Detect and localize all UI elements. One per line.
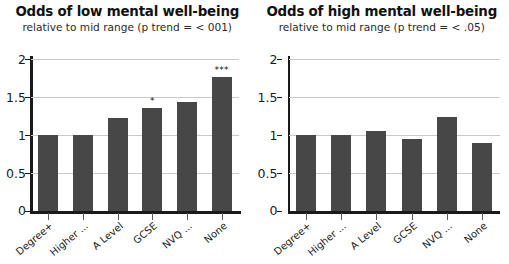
- bar-slot: [66, 59, 101, 211]
- x-axis-tick-labels-left: Degree+Higher ...A LevelGCSENVQ ...None: [31, 220, 239, 264]
- bar-gcse: [402, 139, 422, 211]
- y-tick-label-1_5: 1.5: [6, 92, 26, 104]
- plot-area-left: * ***: [31, 59, 239, 211]
- x-tick-label: Higher ...: [48, 220, 90, 258]
- x-tick-mark: [152, 213, 153, 220]
- y-tick-mark-1: [277, 135, 282, 136]
- chart-panel-low-wellbeing: Odds of low mental well-being relative t…: [0, 0, 255, 264]
- bar-higher: [331, 135, 351, 211]
- x-tick-mark: [376, 213, 377, 220]
- y-tick-label-2: 2: [18, 54, 26, 66]
- bar-slot: [324, 59, 359, 211]
- panel-title-block-right: Odds of high mental well-being relative …: [255, 0, 509, 34]
- bar-slot: [359, 59, 394, 211]
- bar-none: [472, 143, 492, 211]
- bar-slot: [31, 59, 66, 211]
- y-tick-label-1: 1: [18, 130, 26, 142]
- y-tick-label-1: 1: [270, 130, 278, 142]
- bar-nvq: [177, 102, 197, 211]
- significance-marker: ***: [214, 66, 228, 75]
- x-tick-label: None: [186, 220, 228, 258]
- bar-slot: [100, 59, 135, 211]
- bar-nvq: [437, 117, 457, 211]
- x-tick-label: Higher ...: [306, 220, 348, 258]
- x-tick-mark: [306, 213, 307, 220]
- dual-bar-chart-figure: Odds of low mental well-being relative t…: [0, 0, 509, 264]
- y-axis-tick-labels-right: 2 1.5 1 0.5 0: [255, 0, 285, 264]
- x-tick-label: NVQ ...: [152, 220, 194, 258]
- bar-slot: *: [135, 59, 170, 211]
- significance-marker: *: [150, 97, 155, 106]
- bar-slot: [464, 59, 499, 211]
- y-axis-tick-labels-left: 2 1.5 1 0.5 0: [0, 0, 30, 264]
- x-axis-tick-marks-right: [289, 213, 500, 220]
- x-axis-tick-labels-right: Degree+Higher ...A LevelGCSENVQ ...None: [289, 220, 500, 264]
- panel-subtitle: relative to mid range (p trend = < .05): [255, 20, 509, 34]
- bar-none: [212, 77, 232, 211]
- plot-area-right: [289, 59, 500, 211]
- y-tick-label-1_5: 1.5: [258, 92, 278, 104]
- panel-subtitle: relative to mid range (p trend = < 001): [0, 20, 255, 34]
- bar-slot: [429, 59, 464, 211]
- bar-slot: ***: [204, 59, 239, 211]
- bar-degree-plus: [296, 135, 316, 211]
- y-tick-mark-0: [277, 211, 282, 212]
- x-tick-label: A Level: [341, 220, 383, 258]
- bar-series-right: [289, 59, 500, 211]
- x-tick-label: GCSE: [376, 220, 418, 258]
- x-tick-mark: [83, 213, 84, 220]
- bar-a-level: [108, 118, 128, 211]
- page-title: Odds of low mental well-being: [0, 0, 255, 20]
- bar-slot: [289, 59, 324, 211]
- y-tick-label-0_5: 0.5: [258, 168, 278, 180]
- y-tick-label-0_5: 0.5: [6, 168, 26, 180]
- bar-higher: [73, 135, 93, 211]
- bar-series-left: * ***: [31, 59, 239, 211]
- bar-degree-plus: [38, 135, 58, 211]
- panel-title-block-left: Odds of low mental well-being relative t…: [0, 0, 255, 34]
- bar-slot: [170, 59, 205, 211]
- x-tick-mark: [48, 213, 49, 220]
- bar-slot: [394, 59, 429, 211]
- x-tick-mark: [482, 213, 483, 220]
- bar-a-level: [366, 131, 386, 211]
- y-tick-mark-2: [277, 59, 282, 60]
- y-tick-mark-1_5: [277, 97, 282, 98]
- x-axis-tick-marks-left: [31, 213, 239, 220]
- x-tick-label: NVQ ...: [412, 220, 454, 258]
- chart-panel-high-wellbeing: Odds of high mental well-being relative …: [255, 0, 509, 264]
- y-tick-label-2: 2: [270, 54, 278, 66]
- bar-gcse: [142, 108, 162, 211]
- x-tick-mark: [187, 213, 188, 220]
- x-tick-mark: [341, 213, 342, 220]
- x-tick-label: None: [447, 220, 489, 258]
- page-title: Odds of high mental well-being: [255, 0, 509, 20]
- y-tick-mark-0_5: [277, 173, 282, 174]
